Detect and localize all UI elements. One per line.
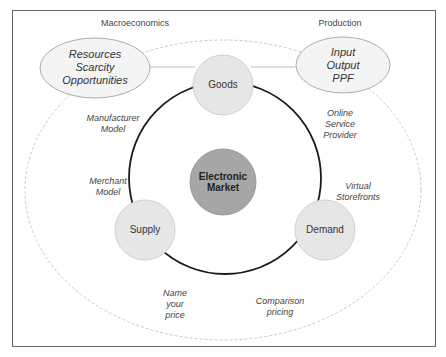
label-electronic-market: Electronic Market (190, 171, 256, 193)
text-virtual: Virtual (323, 181, 393, 192)
text-price: price (155, 310, 195, 321)
label-output: Output (296, 59, 390, 72)
label-goods: Goods (193, 79, 253, 90)
ellipse-macroeconomics-text: Resources Scarcity Opportunities (40, 48, 150, 87)
annotation-manufacturer-model: Manufacturer Model (78, 113, 148, 135)
text-service: Service (310, 119, 370, 130)
text-provider: Provider (310, 130, 370, 141)
annotation-comparison-pricing: Comparison pricing (245, 296, 315, 318)
text-model: Model (78, 124, 148, 135)
label-opportunities: Opportunities (40, 74, 150, 87)
text-online: Online (310, 108, 370, 119)
label-demand: Demand (295, 224, 355, 235)
text-name: Name (155, 288, 195, 299)
label-market: Market (190, 182, 256, 193)
annotation-name-your-price: Name your price (155, 288, 195, 321)
text-storefronts: Storefronts (323, 192, 393, 203)
label-ppf: PPF (296, 72, 390, 85)
label-scarcity: Scarcity (40, 61, 150, 74)
ellipse-production-text: Input Output PPF (296, 46, 390, 85)
text-model: Model (78, 187, 138, 198)
electronic-market-diagram: Macroeconomics Production Resources Scar… (0, 0, 446, 357)
header-macroeconomics: Macroeconomics (80, 18, 190, 29)
label-resources: Resources (40, 48, 150, 61)
annotation-virtual-storefronts: Virtual Storefronts (323, 181, 393, 203)
text-your: your (155, 299, 195, 310)
text-comparison: Comparison (245, 296, 315, 307)
annotation-merchant-model: Merchant Model (78, 176, 138, 198)
annotation-online-service-provider: Online Service Provider (310, 108, 370, 141)
text-pricing: pricing (245, 307, 315, 318)
label-electronic: Electronic (190, 171, 256, 182)
label-input: Input (296, 46, 390, 59)
header-production: Production (285, 18, 395, 29)
text-merchant: Merchant (78, 176, 138, 187)
label-supply: Supply (115, 224, 175, 235)
text-manufacturer: Manufacturer (78, 113, 148, 124)
